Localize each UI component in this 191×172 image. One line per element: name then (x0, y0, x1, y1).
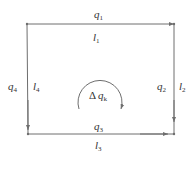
label-q4: q4 (8, 80, 18, 94)
label-l4: l4 (33, 80, 40, 94)
label-q2: q2 (157, 80, 167, 94)
pipe-loop-diagram: q1 l1 q2 l2 q3 l3 q4 l4 Δqk (0, 0, 191, 172)
label-q3: q3 (94, 120, 104, 134)
label-l1: l1 (93, 31, 100, 45)
label-l3: l3 (95, 139, 102, 153)
node-bottom-right (173, 133, 175, 135)
label-l2: l2 (179, 80, 186, 94)
node-top-right (173, 23, 175, 25)
label-q1: q1 (94, 8, 104, 22)
node-top-left (26, 23, 28, 25)
label-delta-qk: Δqk (89, 89, 108, 103)
node-bottom-left (27, 133, 29, 135)
